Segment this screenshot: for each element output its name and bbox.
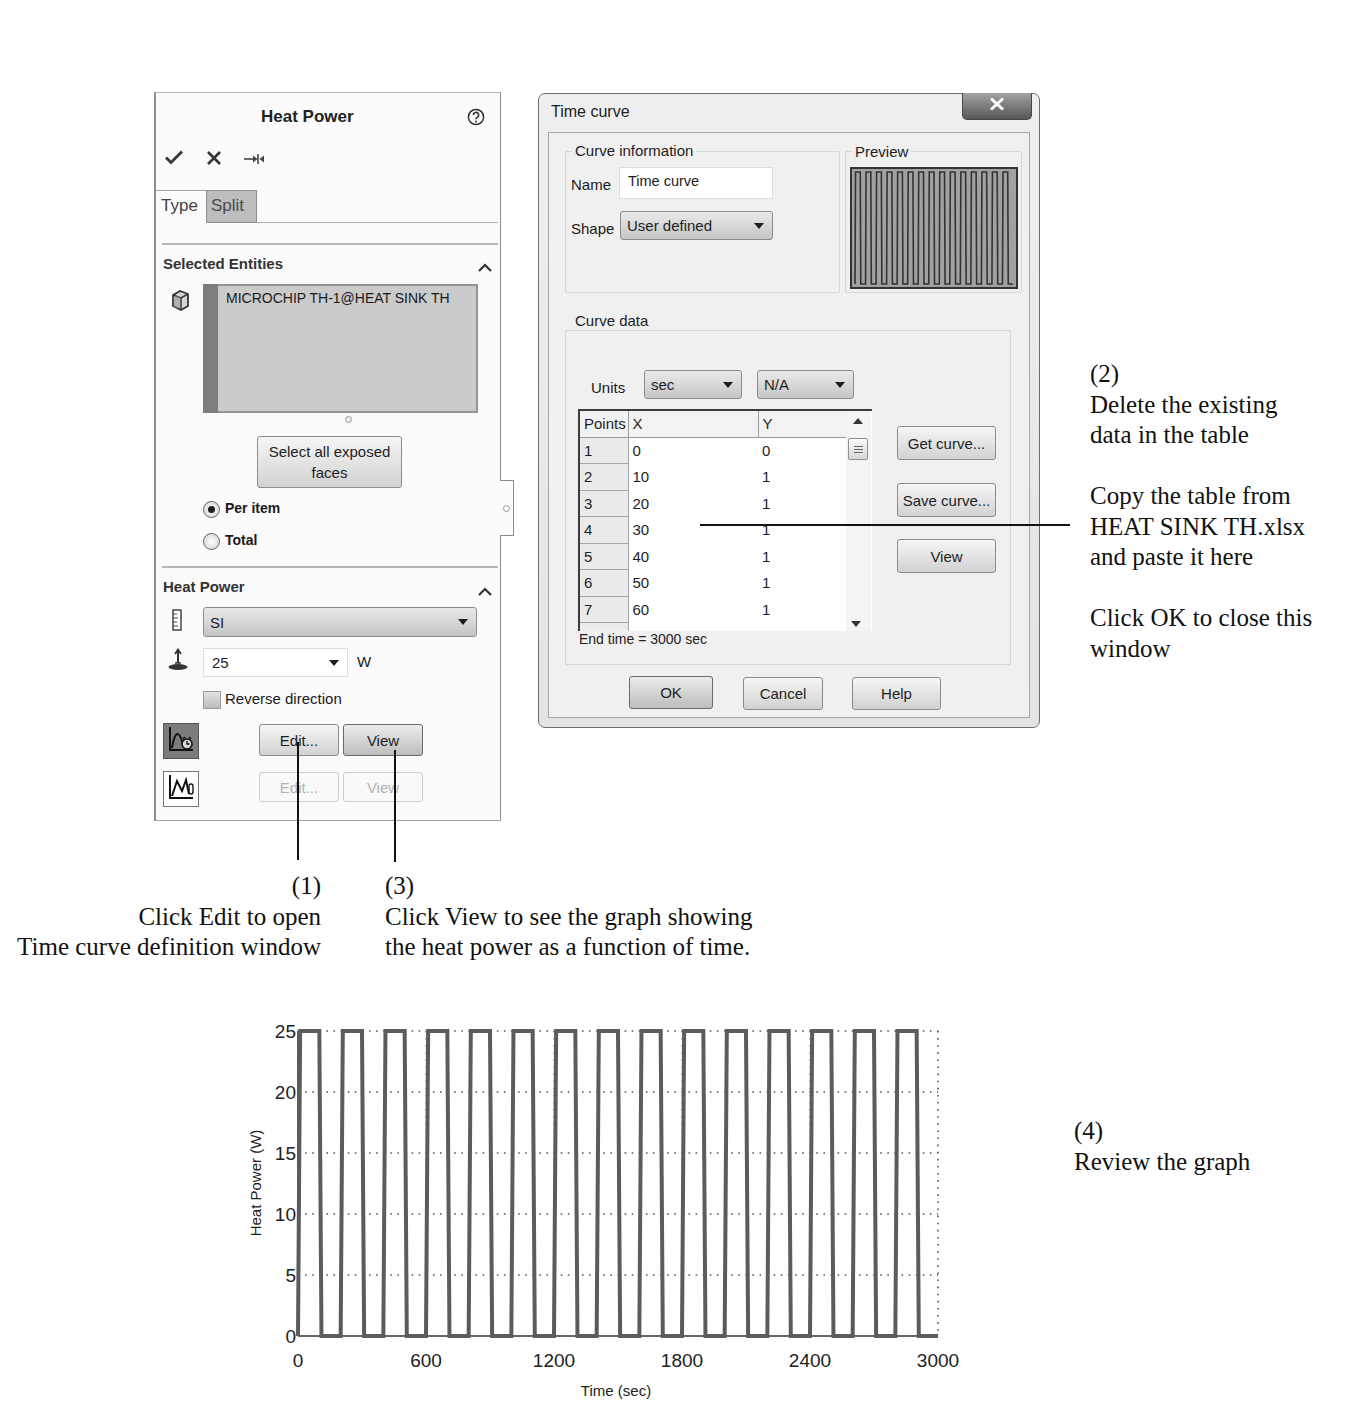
annotation-line: (3) bbox=[385, 871, 752, 902]
y-tick-label: 15 bbox=[275, 1143, 296, 1164]
save-curve-button[interactable]: Save curve... bbox=[897, 483, 996, 517]
tab-type[interactable]: Type bbox=[156, 190, 206, 223]
y-cell[interactable]: 1 bbox=[758, 517, 846, 544]
y-cell[interactable]: 1 bbox=[758, 543, 846, 570]
pin-icon[interactable] bbox=[243, 151, 265, 169]
annotation-line: data in the table bbox=[1090, 420, 1312, 451]
y-cell[interactable]: 0 bbox=[758, 437, 846, 464]
curve-preview-plot bbox=[852, 169, 1016, 287]
x-tick-label: 600 bbox=[410, 1350, 442, 1371]
ok-button[interactable]: OK bbox=[629, 676, 713, 709]
selected-entity-item[interactable]: MICROCHIP TH-1@HEAT SINK TH bbox=[226, 290, 450, 306]
per-item-label[interactable]: Per item bbox=[225, 500, 280, 516]
x-cell[interactable]: 40 bbox=[628, 543, 758, 570]
x-unit-dropdown[interactable]: sec bbox=[644, 370, 742, 399]
close-icon[interactable] bbox=[206, 150, 222, 170]
y-cell[interactable]: 1 bbox=[758, 490, 846, 517]
view-curve-button[interactable]: View bbox=[897, 539, 996, 573]
temperature-curve-edit-button: Edit... bbox=[259, 772, 339, 802]
table-row-partial[interactable] bbox=[580, 623, 846, 632]
table-row[interactable]: 4301 bbox=[580, 517, 846, 544]
point-index: 5 bbox=[580, 543, 628, 570]
annotation-line: (1) bbox=[0, 871, 321, 902]
x-axis-label: Time (sec) bbox=[581, 1382, 651, 1399]
per-item-radio[interactable] bbox=[203, 501, 220, 518]
preview-series bbox=[855, 172, 1013, 284]
time-curve-icon bbox=[166, 724, 196, 758]
shape-dropdown[interactable]: User defined bbox=[620, 211, 773, 240]
scrollbar-thumb[interactable] bbox=[848, 438, 868, 460]
y-tick-label: 0 bbox=[285, 1326, 296, 1347]
chevron-up-icon[interactable] bbox=[478, 582, 492, 600]
time-curve-toggle[interactable] bbox=[163, 723, 199, 759]
y-cell[interactable] bbox=[758, 623, 846, 632]
select-all-exposed-faces-button[interactable]: Select all exposed faces bbox=[257, 436, 402, 488]
x-cell[interactable]: 60 bbox=[628, 596, 758, 623]
unit-system-dropdown[interactable]: SI bbox=[203, 607, 477, 637]
curve-information-label: Curve information bbox=[572, 142, 696, 159]
point-index bbox=[580, 623, 628, 632]
name-label: Name bbox=[571, 176, 611, 193]
chevron-up-icon[interactable] bbox=[478, 258, 492, 276]
table-row[interactable]: 7601 bbox=[580, 596, 846, 623]
y-tick-label: 25 bbox=[275, 1021, 296, 1042]
annotation-step4: (4) Review the graph bbox=[1074, 1116, 1250, 1177]
table-row[interactable]: 6501 bbox=[580, 570, 846, 597]
heat-power-header[interactable]: Heat Power bbox=[163, 578, 245, 595]
x-tick-label: 1800 bbox=[661, 1350, 703, 1371]
ruler-icon bbox=[172, 609, 183, 635]
x-tick-label: 2400 bbox=[789, 1350, 831, 1371]
x-cell[interactable] bbox=[628, 623, 758, 632]
scroll-up-arrow-icon[interactable] bbox=[853, 418, 863, 424]
y-cell[interactable]: 1 bbox=[758, 464, 846, 491]
y-unit-dropdown[interactable]: N/A bbox=[757, 370, 854, 399]
check-icon[interactable] bbox=[164, 149, 184, 169]
reverse-direction-label[interactable]: Reverse direction bbox=[225, 690, 342, 707]
curve-data-label: Curve data bbox=[572, 312, 651, 329]
temperature-curve-toggle[interactable] bbox=[163, 771, 199, 807]
column-header-x: X bbox=[628, 411, 758, 437]
table-row[interactable]: 100 bbox=[580, 437, 846, 464]
point-index: 1 bbox=[580, 437, 628, 464]
time-curve-view-button[interactable]: View bbox=[343, 724, 423, 756]
curve-name-input[interactable]: Time curve bbox=[619, 167, 773, 199]
y-cell[interactable]: 1 bbox=[758, 570, 846, 597]
shape-value: User defined bbox=[627, 217, 712, 234]
time-curve-edit-button[interactable]: Edit... bbox=[259, 724, 339, 756]
list-resize-handle[interactable] bbox=[345, 416, 352, 423]
heat-power-time-chart: 060012001800240030000510152025Time (sec)… bbox=[230, 1005, 970, 1406]
scroll-down-arrow-icon[interactable] bbox=[851, 621, 861, 627]
total-radio[interactable] bbox=[203, 533, 220, 550]
table-row[interactable]: 2101 bbox=[580, 464, 846, 491]
reverse-direction-checkbox[interactable] bbox=[203, 691, 221, 709]
tab-split[interactable]: Split bbox=[206, 190, 257, 223]
annotation-line: (4) bbox=[1074, 1116, 1250, 1147]
x-cell[interactable]: 0 bbox=[628, 437, 758, 464]
section-divider bbox=[162, 243, 498, 245]
annotation-step3: (3) Click View to see the graph showing … bbox=[385, 871, 752, 963]
y-cell[interactable]: 1 bbox=[758, 596, 846, 623]
cancel-button[interactable]: Cancel bbox=[743, 677, 823, 710]
heat-power-value-input[interactable]: 25 bbox=[203, 648, 348, 677]
panel-resize-handle[interactable] bbox=[503, 505, 510, 512]
x-cell[interactable]: 30 bbox=[628, 517, 758, 544]
dropdown-arrow-icon[interactable] bbox=[329, 660, 339, 666]
x-cell[interactable]: 20 bbox=[628, 490, 758, 517]
help-icon[interactable] bbox=[467, 108, 485, 126]
dialog-close-button[interactable] bbox=[962, 93, 1032, 120]
total-label[interactable]: Total bbox=[225, 532, 257, 548]
help-button[interactable]: Help bbox=[852, 677, 941, 710]
y-axis-label: Heat Power (W) bbox=[247, 1130, 264, 1237]
selection-color-strip bbox=[203, 284, 218, 413]
x-cell[interactable]: 10 bbox=[628, 464, 758, 491]
unit-label: W bbox=[357, 653, 371, 670]
units-label: Units bbox=[591, 379, 625, 396]
table-row[interactable]: 5401 bbox=[580, 543, 846, 570]
annotation-step2: (2) Delete the existing data in the tabl… bbox=[1090, 359, 1312, 664]
curve-data-table[interactable]: Points X Y 100 2101 3201 4301 5401 6501 … bbox=[578, 409, 872, 631]
selected-entities-header[interactable]: Selected Entities bbox=[163, 255, 283, 272]
x-cell[interactable]: 50 bbox=[628, 570, 758, 597]
table-row[interactable]: 3201 bbox=[580, 490, 846, 517]
annotation-line: (2) bbox=[1090, 359, 1312, 390]
get-curve-button[interactable]: Get curve... bbox=[897, 426, 996, 460]
